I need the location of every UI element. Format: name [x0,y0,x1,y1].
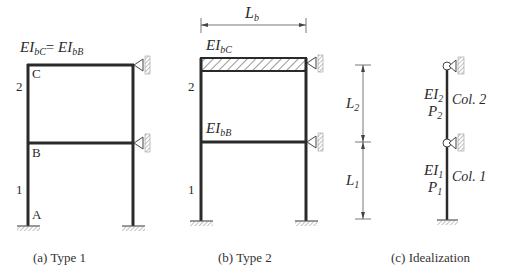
roller-support-icon [134,56,150,74]
caption-type-2: (b) Type 2 [218,250,272,266]
col1-name-label: Col. 1 [452,170,486,184]
roller-support-icon [307,133,323,151]
idealization [355,57,464,225]
length-label-1: L1 [346,173,359,188]
joint-label-b: B [32,146,41,159]
roller-support-icon [307,55,323,72]
col1-load-label: P1 [428,180,442,195]
col2-name-label: Col. 2 [452,93,486,107]
col2-stiffness-label: EI2 [424,87,443,102]
story-label-1: 1 [188,183,195,196]
top-beam-label: EIbC [206,38,232,53]
caption-idealization: (c) Idealization [391,250,470,266]
roller-support-icon [134,134,150,152]
fixed-support-icon [122,226,145,231]
beam-stiffness-equality-label: EIbC= EIbB [20,40,83,55]
mid-beam-label: EIbB [206,121,231,136]
story-label-2: 2 [188,80,195,93]
caption-type-1: (a) Type 1 [33,250,86,266]
fixed-support-icon [17,226,40,231]
frame-type-1 [17,56,150,231]
span-label: Lb [245,5,259,21]
joint-label-c: C [32,67,41,80]
fixed-support-icon [190,221,213,226]
col1-stiffness-label: EI1 [424,163,443,178]
joint-label-a: A [32,208,41,221]
story-label-1: 1 [16,183,23,196]
rigid-beam [201,58,306,71]
length-dimension [355,65,371,219]
story-label-2: 2 [16,80,23,93]
length-label-2: L2 [346,96,359,111]
col2-load-label: P2 [428,104,442,119]
fixed-support-icon [437,220,458,225]
fixed-support-icon [295,221,318,226]
